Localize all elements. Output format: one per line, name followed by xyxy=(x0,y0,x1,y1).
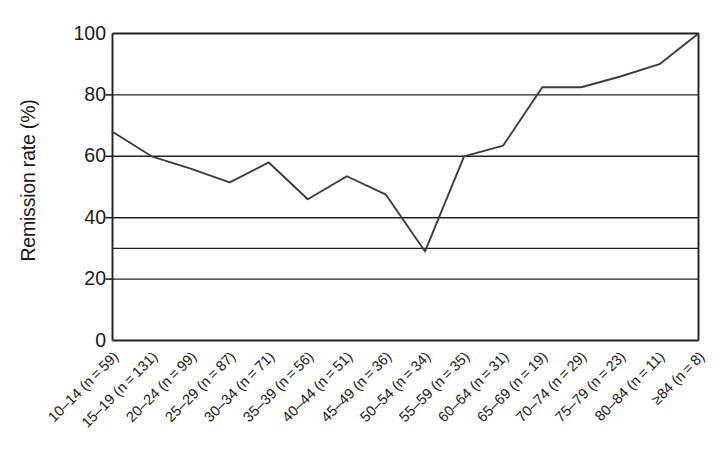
remission-rate-line xyxy=(113,34,699,252)
chart-figure: Remission rate (%) 020406080100 10–14 (n… xyxy=(0,0,719,465)
plot-area xyxy=(0,0,719,465)
data-line xyxy=(113,34,699,252)
gridlines xyxy=(113,34,699,280)
